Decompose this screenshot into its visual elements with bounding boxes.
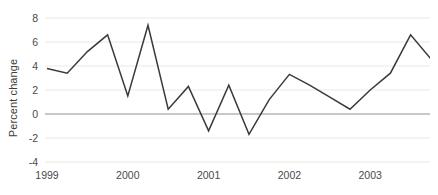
y-axis-tick-label: -2 — [14, 133, 38, 143]
y-axis-tick-label: 8 — [14, 13, 38, 23]
y-axis-tick-label: 2 — [14, 85, 38, 95]
y-axis-tick-label: 6 — [14, 37, 38, 47]
y-axis-tick-label: 0 — [14, 109, 38, 119]
plot-svg — [45, 0, 430, 195]
line-chart: Percent change 86420-2-4 199920002001200… — [0, 0, 438, 195]
plot-area — [45, 0, 430, 195]
y-axis-tick-label: 4 — [14, 61, 38, 71]
y-axis-tick-label: -4 — [14, 157, 38, 167]
